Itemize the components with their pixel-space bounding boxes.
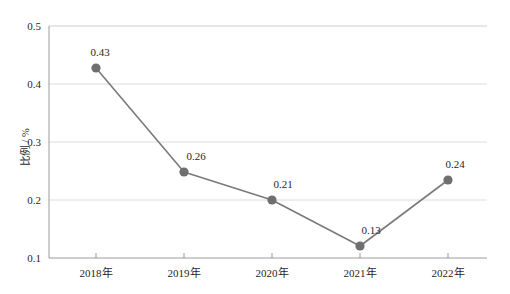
y-tick-label-0-2: 0.2 (1, 194, 41, 206)
y-tick-label-0-3: 0.3 (1, 136, 41, 148)
data-point-2021[interactable] (355, 241, 364, 250)
y-tick-label-0-1: 0.1 (1, 252, 41, 264)
x-tick-label-2020: 2020年 (237, 264, 307, 280)
x-tick-label-2022: 2022年 (413, 264, 483, 280)
y-tick-label-0-4: 0.4 (1, 78, 41, 90)
data-label-2022: 0.24 (430, 158, 480, 170)
data-label-2018: 0.43 (75, 46, 125, 58)
x-tick-label-2018: 2018年 (61, 264, 131, 280)
y-tick-label-0-5: 0.5 (1, 20, 41, 32)
plot-area (0, 0, 510, 294)
data-point-2019[interactable] (179, 167, 188, 176)
data-label-2021: 0.13 (346, 224, 396, 236)
data-line (96, 68, 448, 246)
x-tick-label-2021: 2021年 (325, 264, 395, 280)
data-point-2022[interactable] (443, 175, 452, 184)
data-point-2020[interactable] (267, 195, 276, 204)
line-chart: 比例 / % 0.5 0.4 0.3 0.2 0.1 2018年 2019年 2… (0, 0, 510, 294)
data-label-2020: 0.21 (258, 178, 308, 190)
x-tick-label-2019: 2019年 (149, 264, 219, 280)
data-label-2019: 0.26 (171, 150, 221, 162)
data-point-2018[interactable] (91, 63, 100, 72)
